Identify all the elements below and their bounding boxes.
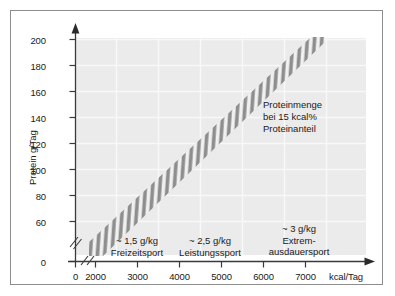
category-extremausdauersport: ~ 3 g/kg Extrem- ausdauersport	[247, 223, 351, 258]
figure-canvas: 0 60 80 100 120 140 160 180 200 0 2000 3…	[0, 0, 395, 296]
chart-frame: 0 60 80 100 120 140 160 180 200 0 2000 3…	[10, 10, 383, 285]
y-tick-label-160: 160	[16, 87, 46, 98]
x-tick-label-3000: 3000	[118, 271, 158, 282]
x-tick-label-2000: 2000	[76, 271, 116, 282]
category-extremausdauersport-label-line1: Extrem-	[247, 235, 351, 247]
category-extremausdauersport-label-line2: ausdauersport	[247, 246, 351, 258]
x-tick-label-5000: 5000	[202, 271, 242, 282]
y-axis-title: Protein g/Tag	[27, 130, 38, 185]
x-axis-arrow	[365, 258, 376, 266]
category-extremausdauersport-amount: ~ 3 g/kg	[247, 223, 351, 235]
x-tick-marks	[76, 262, 306, 268]
y-tick-label-80: 80	[16, 191, 46, 202]
band-annotation-line1: Proteinmenge	[263, 99, 322, 111]
y-tick-label-200: 200	[16, 35, 46, 46]
x-tick-label-6000: 6000	[244, 271, 284, 282]
x-axis-title: kcal/Tag	[329, 271, 363, 282]
y-tick-marks	[70, 40, 76, 262]
band-annotation-line3: Proteinanteil	[263, 123, 322, 135]
y-tick-label-0: 0	[16, 257, 46, 268]
y-tick-label-140: 140	[16, 113, 46, 124]
y-tick-label-180: 180	[16, 61, 46, 72]
y-axis-arrow	[72, 23, 80, 34]
y-tick-label-60: 60	[16, 217, 46, 228]
x-tick-label-4000: 4000	[160, 271, 200, 282]
x-tick-label-7000: 7000	[286, 271, 326, 282]
band-annotation: Proteinmenge bei 15 kcal% Proteinanteil	[263, 99, 322, 135]
band-annotation-line2: bei 15 kcal%	[263, 111, 322, 123]
